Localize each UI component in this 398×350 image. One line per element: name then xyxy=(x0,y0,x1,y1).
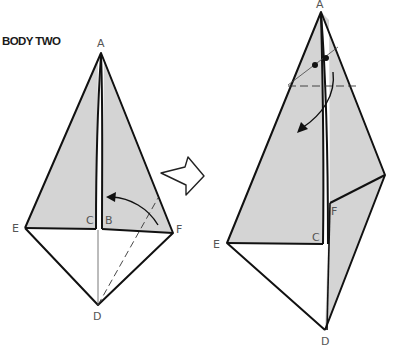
label-A-right: A xyxy=(316,0,324,11)
left-figure: A E C B F D xyxy=(12,37,182,323)
right-edge-E-C xyxy=(227,243,323,244)
label-B-left: B xyxy=(105,214,113,227)
left-white-bottom xyxy=(25,228,173,305)
label-A-left: A xyxy=(97,37,105,50)
label-E-left: E xyxy=(12,222,19,235)
label-C-right: C xyxy=(312,231,320,244)
label-D-left: D xyxy=(93,310,101,323)
right-gray-right-upper xyxy=(321,12,385,203)
diagram-canvas: A E C B F D xyxy=(0,0,398,350)
label-F-left: F xyxy=(176,223,182,236)
label-D-right: D xyxy=(321,335,329,348)
label-F-right: F xyxy=(331,205,337,218)
left-edge-E-C xyxy=(25,228,96,229)
right-dot-marker-1 xyxy=(312,62,318,68)
hollow-arrow-right-icon xyxy=(161,157,204,195)
origami-diagram: BODY TWO A E C xyxy=(0,0,398,350)
label-C-left: C xyxy=(86,214,94,227)
right-dot-marker-2 xyxy=(323,55,329,61)
label-E-right: E xyxy=(213,238,220,251)
left-center-edge-B xyxy=(101,55,102,229)
right-figure: A E C F D xyxy=(213,0,385,348)
